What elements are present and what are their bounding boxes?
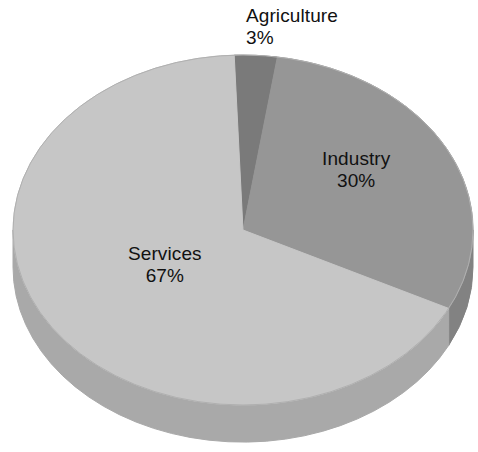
pie-chart-figure: Agriculture 3% Industry 30% Services 67% xyxy=(0,0,478,452)
pie-top-face xyxy=(13,55,473,405)
pie-chart-graphic xyxy=(0,0,478,452)
